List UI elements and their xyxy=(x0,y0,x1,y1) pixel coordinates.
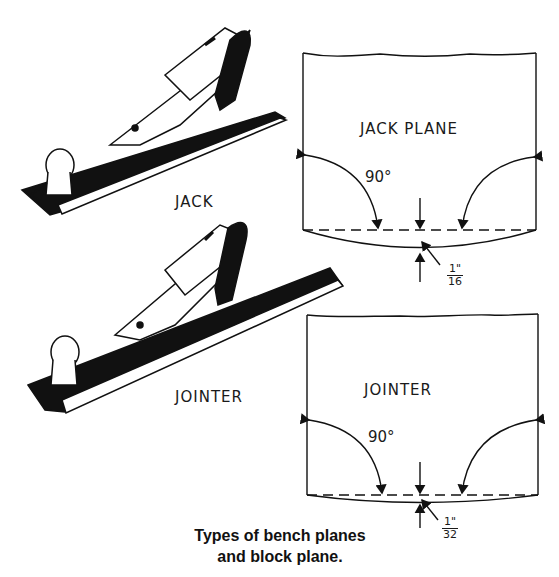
jack-plane-illustration xyxy=(22,28,286,215)
figure-caption: Types of bench planes and block plane. xyxy=(150,525,410,567)
jointer-diagram-title: JOINTER xyxy=(364,381,432,399)
jack-label: JACK xyxy=(175,193,213,211)
figure-drawing xyxy=(0,0,559,577)
caption-line-1: Types of bench planes xyxy=(150,525,410,546)
jointer-diagram xyxy=(307,314,538,528)
jack-plane-diagram-title: JACK PLANE xyxy=(360,120,458,138)
caption-line-2: and block plane. xyxy=(150,546,410,567)
jack-crown-fraction: 1" 16 xyxy=(447,263,463,288)
jack-crown-denominator: 16 xyxy=(447,276,463,288)
jointer-crown-denominator: 32 xyxy=(442,529,458,541)
jointer-angle-label: 90° xyxy=(368,428,395,446)
jack-plane-diagram xyxy=(303,53,536,282)
jack-angle-label: 90° xyxy=(365,168,392,186)
jointer-label: JOINTER xyxy=(175,388,243,406)
jointer-crown-fraction: 1" 32 xyxy=(442,516,458,541)
jointer-plane-illustration xyxy=(28,223,343,413)
